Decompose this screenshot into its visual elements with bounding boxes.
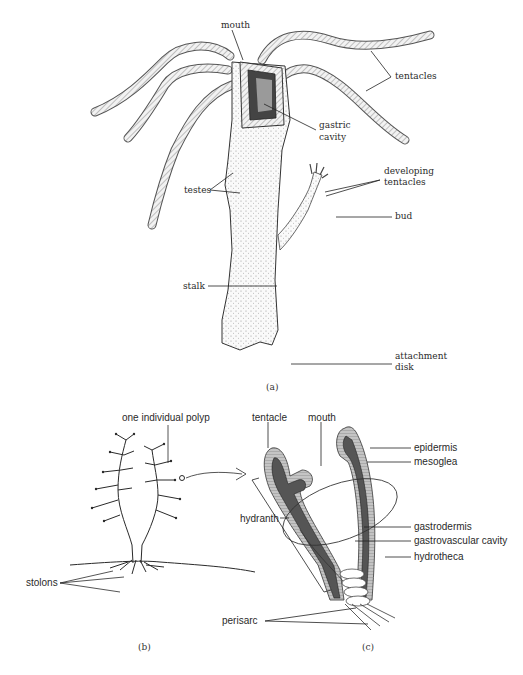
label-attachment-disk-line2: disk <box>395 362 414 373</box>
label-gastrodermis: gastrodermis <box>414 521 472 532</box>
label-mesoglea: mesoglea <box>414 456 457 467</box>
label-tentacle: tentacle <box>252 412 287 423</box>
caption-c: (c) <box>362 642 374 652</box>
label-perisarc: perisarc <box>222 615 258 626</box>
figure-artwork <box>0 0 523 675</box>
label-tentacles: tentacles <box>395 71 437 82</box>
label-one-individual-polyp: one individual polyp <box>122 412 210 423</box>
label-hydranth: hydranth <box>240 513 279 524</box>
label-developing-tentacles-line1: developing <box>384 166 434 177</box>
label-gastrovascular-cavity: gastrovascular cavity <box>414 535 507 546</box>
caption-a: (a) <box>266 382 278 392</box>
label-epidermis: epidermis <box>414 442 457 453</box>
hydranth-section <box>252 422 411 630</box>
label-mouth-c: mouth <box>308 412 336 423</box>
label-hydrotheca: hydrotheca <box>414 551 463 562</box>
label-stolons: stolons <box>26 577 58 588</box>
label-mouth: mouth <box>221 20 250 31</box>
colony-illustration <box>60 425 255 592</box>
label-developing-tentacles-line2: tentacles <box>384 177 426 188</box>
label-gastric-cavity-line1: gastric <box>319 120 351 131</box>
label-stalk: stalk <box>183 281 205 292</box>
hydra-illustration <box>95 30 430 364</box>
label-testes: testes <box>184 185 211 196</box>
label-attachment-disk-line1: attachment <box>395 351 447 362</box>
label-bud: bud <box>395 211 412 222</box>
caption-b: (b) <box>138 642 151 652</box>
label-gastric-cavity-line2: cavity <box>319 132 346 143</box>
